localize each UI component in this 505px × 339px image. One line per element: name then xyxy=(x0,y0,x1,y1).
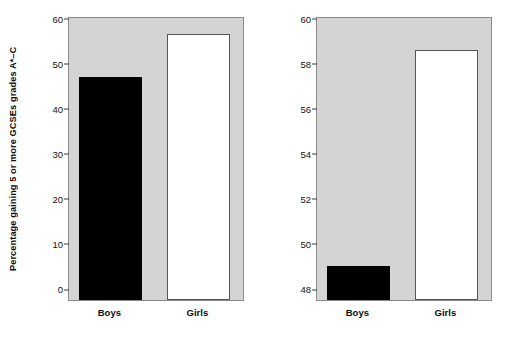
bar-boys-right xyxy=(327,266,389,300)
y-axis-tick-label: 50 xyxy=(52,58,69,69)
y-axis-tick-label: 50 xyxy=(300,238,317,249)
y-axis-tick-label: 0 xyxy=(58,284,69,295)
chart-panel-full-scale: Percentage gaining 5 or more GCSEs grade… xyxy=(0,0,252,339)
y-axis-tick-label: 52 xyxy=(300,193,317,204)
y-axis-tick-label: 40 xyxy=(52,103,69,114)
bar-girls-left xyxy=(167,34,229,300)
y-axis-tick-label: 10 xyxy=(52,238,69,249)
bar-chart-figure: Percentage gaining 5 or more GCSEs grade… xyxy=(0,0,505,339)
y-axis-tick-label: 60 xyxy=(52,13,69,24)
plot-area-left: 0102030405060 xyxy=(68,17,244,301)
y-axis-tick-label: 30 xyxy=(52,148,69,159)
y-axis-tick-label: 56 xyxy=(300,103,317,114)
bar-boys-left xyxy=(79,77,141,300)
x-axis-category-label-boys: Boys xyxy=(98,307,121,318)
x-axis-category-label-boys: Boys xyxy=(346,307,369,318)
x-axis-category-label-girls: Girls xyxy=(187,307,209,318)
y-axis-tick-label: 48 xyxy=(300,284,317,295)
chart-panel-truncated-scale: Percentage gaining 5 or more GCSEs grade… xyxy=(252,0,504,339)
y-axis-tick-label: 54 xyxy=(300,148,317,159)
bar-girls-right xyxy=(415,50,477,300)
y-axis-tick-label: 58 xyxy=(300,58,317,69)
y-axis-tick-label: 20 xyxy=(52,193,69,204)
plot-area-right: 48505254565860 xyxy=(316,17,492,301)
x-axis-category-label-girls: Girls xyxy=(435,307,457,318)
y-axis-tick-label: 60 xyxy=(300,13,317,24)
y-axis-title-left: Percentage gaining 5 or more GCSEs grade… xyxy=(8,17,18,301)
